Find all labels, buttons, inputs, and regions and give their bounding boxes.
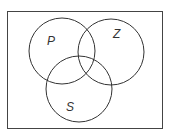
set-z-circle	[78, 19, 144, 85]
venn-diagram: P Z S	[0, 0, 170, 133]
set-p-label: P	[47, 34, 55, 48]
set-s-circle	[46, 56, 112, 122]
set-p-circle	[29, 18, 95, 84]
set-s-label: S	[66, 100, 74, 114]
set-z-label: Z	[112, 27, 121, 41]
